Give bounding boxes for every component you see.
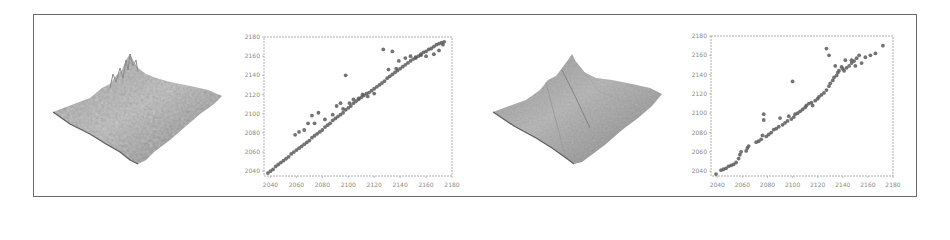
scatter-chart-1: 2040206020802100212021402160218020402060… [236,30,462,192]
data-point [860,61,864,65]
x-tick-label: 2120 [810,181,825,188]
x-tick-label: 2140 [392,181,407,188]
data-point [777,125,781,129]
data-point [366,95,370,99]
data-point [383,79,387,83]
y-tick-label: 2060 [692,148,707,155]
data-point [827,53,831,57]
x-tick-label: 2100 [341,181,356,188]
x-tick-label: 2060 [735,181,750,188]
x-tick-label: 2180 [885,181,900,188]
data-point [833,64,837,68]
data-point [419,53,423,57]
surface-plot-icon [490,48,665,170]
terrain-surface-2 [490,48,665,170]
data-point [387,68,391,72]
data-point [320,128,324,132]
terrain-surface-1 [50,48,225,170]
data-point [437,49,441,53]
y-tick-label: 2100 [692,109,707,116]
data-point [313,121,317,125]
data-point [842,69,846,73]
x-tick-label: 2080 [315,181,330,188]
data-point [293,133,297,137]
data-point [759,137,763,141]
data-point [424,54,428,58]
data-point [441,43,445,47]
y-tick-label: 2120 [692,90,707,97]
y-tick-label: 2080 [692,129,707,136]
data-point [341,111,345,115]
data-point [306,121,310,125]
data-point [344,73,348,77]
data-point [328,121,332,125]
scatter-plot-1: 2040206020802100212021402160218020402060… [236,30,462,192]
data-point [397,59,401,63]
data-point [432,52,436,56]
data-point [714,172,718,176]
data-point [828,81,832,85]
data-point [341,107,345,111]
data-point [811,104,815,108]
data-point [863,55,867,59]
data-point [747,144,751,148]
data-point [297,130,301,134]
data-point [310,114,314,118]
data-point [881,44,885,48]
y-tick-label: 2080 [245,129,260,136]
data-point [786,119,790,123]
data-point [372,92,376,96]
y-tick-label: 2120 [245,91,260,98]
y-tick-label: 2140 [692,71,707,78]
x-tick-label: 2040 [710,181,725,188]
data-point [390,49,394,53]
data-point [394,67,398,71]
x-tick-label: 2120 [367,181,382,188]
data-point [761,134,765,138]
data-point [843,58,847,62]
data-point [734,161,738,165]
data-point [825,88,829,92]
data-point [403,56,407,60]
data-point [352,97,356,101]
data-point [302,128,306,132]
data-point [357,96,361,100]
x-tick-label: 2060 [289,181,304,188]
y-tick-label: 2180 [245,33,260,40]
x-tick-label: 2180 [444,181,459,188]
x-tick-label: 2160 [418,181,433,188]
data-point [271,167,275,171]
data-point [409,54,413,58]
data-point [335,104,339,108]
data-point [853,64,857,68]
y-tick-label: 2100 [245,110,260,117]
y-tick-label: 2160 [692,51,707,58]
data-point [331,113,335,117]
data-point [317,111,321,115]
y-tick-label: 2140 [245,71,260,78]
data-point [348,101,352,105]
data-point [855,56,859,60]
data-point [762,118,766,122]
y-tick-label: 2180 [692,32,707,39]
data-point [778,116,782,120]
scatter-plot-2: 2040206020802100212021402160218020402060… [684,30,910,192]
y-tick-label: 2060 [245,148,260,155]
data-point [825,47,829,51]
data-point [361,93,365,97]
data-point [869,53,873,57]
data-point [874,51,878,55]
data-point [857,53,861,57]
data-point [769,131,773,135]
data-point [737,157,741,161]
x-tick-label: 2100 [785,181,800,188]
data-point [791,79,795,83]
x-tick-label: 2160 [860,181,875,188]
data-point [762,112,766,116]
surface-plot-icon [50,48,225,170]
scatter-chart-2: 2040206020802100212021402160218020402060… [684,30,910,192]
data-point [822,91,826,95]
data-point [323,118,327,122]
data-point [850,58,854,62]
data-point [739,150,743,154]
